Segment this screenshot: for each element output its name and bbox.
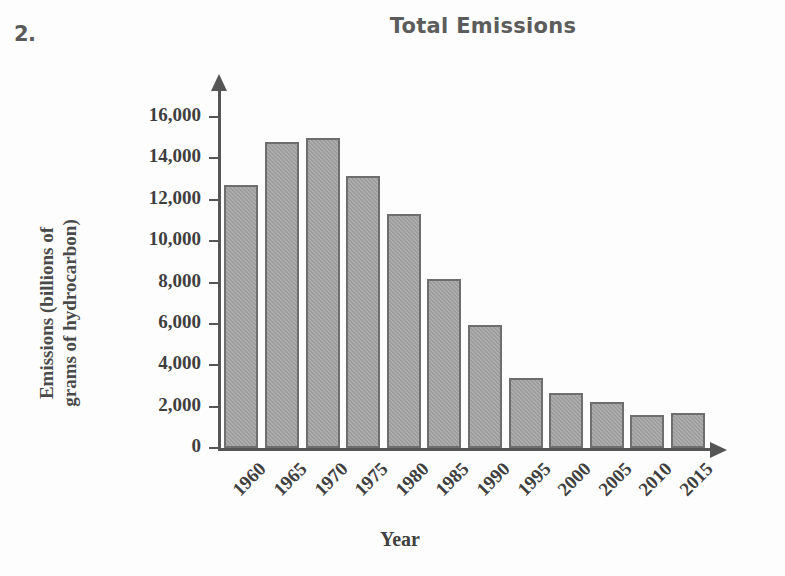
bar: [468, 325, 502, 448]
y-axis-title-line-1: Emissions (billions of: [35, 148, 58, 478]
chart-title: Total Emissions: [318, 14, 648, 38]
y-axis-tick-label: 14,000: [101, 145, 201, 167]
y-axis-tick-mark: [209, 406, 219, 408]
y-axis-tick-label-wrap: 0: [95, 435, 201, 455]
y-axis-tick-label: 8,000: [101, 270, 201, 292]
bar: [630, 415, 664, 448]
bar: [224, 185, 258, 448]
bar: [590, 402, 624, 448]
chart-figure: 2. Total Emissions Emissions (billions o…: [0, 0, 785, 576]
bar: [346, 176, 380, 448]
bar: [387, 214, 421, 448]
y-axis-tick-label: 6,000: [101, 311, 201, 333]
bar: [265, 142, 299, 448]
y-axis-tick-label: 4,000: [101, 352, 201, 374]
y-axis-tick-label-wrap: 8,000: [95, 270, 201, 290]
problem-number: 2.: [14, 22, 36, 46]
y-axis-tick-mark: [209, 157, 219, 159]
bar: [509, 378, 543, 448]
y-axis-tick-label: 0: [101, 435, 201, 457]
y-axis-tick-mark: [209, 364, 219, 366]
y-axis-arrow-icon: [211, 74, 227, 91]
y-axis-line: [218, 88, 221, 450]
y-axis-tick-mark: [209, 240, 219, 242]
y-axis-tick-label-wrap: 6,000: [95, 311, 201, 331]
y-axis-tick-label-wrap: 14,000: [95, 145, 201, 165]
bar: [549, 393, 583, 448]
y-axis-tick-label: 16,000: [101, 104, 201, 126]
y-axis-tick-label: 2,000: [101, 394, 201, 416]
y-axis-tick-mark: [209, 447, 219, 449]
bar: [671, 413, 705, 448]
y-axis-tick-label-wrap: 12,000: [95, 187, 201, 207]
bar: [306, 138, 340, 448]
y-axis-tick-label-wrap: 4,000: [95, 352, 201, 372]
x-axis-arrow-icon: [710, 442, 727, 458]
y-axis-tick-mark: [209, 116, 219, 118]
y-axis-tick-mark: [209, 282, 219, 284]
y-axis-tick-label-wrap: 10,000: [95, 228, 201, 248]
y-axis-tick-label: 10,000: [101, 228, 201, 250]
y-axis-title: Emissions (billions of grams of hydrocar…: [35, 148, 81, 478]
x-axis-line: [218, 448, 713, 451]
y-axis-tick-label-wrap: 16,000: [95, 104, 201, 124]
y-axis-tick-mark: [209, 323, 219, 325]
x-axis-title: Year: [330, 528, 470, 551]
y-axis-title-line-2: grams of hydrocarbon): [58, 148, 81, 478]
bar: [427, 279, 461, 448]
y-axis-tick-label: 12,000: [101, 187, 201, 209]
y-axis-tick-label-wrap: 2,000: [95, 394, 201, 414]
y-axis-tick-mark: [209, 199, 219, 201]
